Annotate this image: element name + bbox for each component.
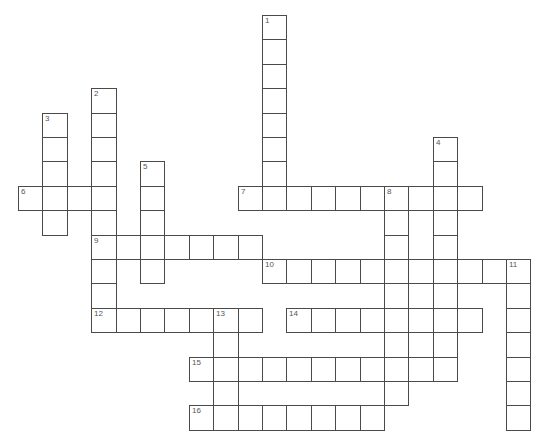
crossword-cell[interactable] — [164, 235, 190, 260]
crossword-cell[interactable] — [262, 88, 287, 114]
crossword-cell[interactable] — [67, 186, 92, 211]
crossword-cell[interactable] — [506, 381, 531, 406]
crossword-cell[interactable] — [311, 405, 336, 431]
crossword-cell[interactable] — [238, 308, 263, 333]
crossword-cell[interactable] — [384, 210, 409, 236]
crossword-cell[interactable]: 1 — [262, 15, 287, 40]
crossword-cell[interactable] — [286, 357, 312, 382]
crossword-cell[interactable]: 14 — [286, 308, 312, 333]
crossword-cell[interactable] — [506, 308, 531, 333]
crossword-cell[interactable] — [262, 137, 287, 162]
crossword-cell[interactable] — [384, 259, 409, 284]
crossword-cell[interactable] — [262, 39, 287, 65]
crossword-cell[interactable] — [433, 308, 458, 333]
crossword-cell[interactable]: 4 — [433, 137, 458, 162]
crossword-cell[interactable]: 12 — [91, 308, 117, 333]
crossword-cell[interactable] — [384, 235, 409, 260]
crossword-cell[interactable] — [140, 308, 165, 333]
crossword-cell[interactable] — [164, 308, 190, 333]
crossword-cell[interactable] — [408, 186, 434, 211]
crossword-cell[interactable] — [311, 357, 336, 382]
crossword-cell[interactable] — [408, 308, 434, 333]
crossword-cell[interactable] — [262, 357, 287, 382]
crossword-cell[interactable] — [360, 405, 385, 431]
crossword-cell[interactable] — [506, 332, 531, 358]
crossword-cell[interactable] — [384, 357, 409, 382]
crossword-cell[interactable]: 15 — [189, 357, 214, 382]
crossword-cell[interactable] — [262, 64, 287, 89]
crossword-cell[interactable] — [140, 259, 165, 284]
crossword-cell[interactable] — [140, 235, 165, 260]
crossword-cell[interactable] — [91, 161, 117, 187]
crossword-cell[interactable]: 13 — [213, 308, 239, 333]
crossword-cell[interactable] — [506, 405, 531, 431]
crossword-cell[interactable] — [91, 186, 117, 211]
crossword-cell[interactable] — [286, 259, 312, 284]
crossword-cell[interactable] — [408, 259, 434, 284]
crossword-cell[interactable] — [42, 161, 68, 187]
crossword-cell[interactable]: 11 — [506, 259, 531, 284]
crossword-cell[interactable] — [91, 113, 117, 138]
crossword-cell[interactable] — [91, 137, 117, 162]
crossword-cell[interactable] — [433, 210, 458, 236]
crossword-cell[interactable] — [213, 235, 239, 260]
crossword-cell[interactable] — [213, 381, 239, 406]
crossword-cell[interactable] — [457, 186, 483, 211]
crossword-cell[interactable] — [433, 357, 458, 382]
crossword-cell[interactable] — [91, 283, 117, 309]
crossword-cell[interactable] — [360, 308, 385, 333]
crossword-cell[interactable] — [433, 186, 458, 211]
crossword-cell[interactable] — [262, 405, 287, 431]
crossword-cell[interactable] — [140, 210, 165, 236]
crossword-cell[interactable] — [384, 308, 409, 333]
crossword-cell[interactable] — [91, 210, 117, 236]
crossword-cell[interactable] — [335, 186, 361, 211]
crossword-cell[interactable] — [384, 381, 409, 406]
crossword-cell[interactable]: 10 — [262, 259, 287, 284]
crossword-cell[interactable] — [360, 259, 385, 284]
crossword-cell[interactable] — [238, 235, 263, 260]
crossword-cell[interactable]: 16 — [189, 405, 214, 431]
crossword-cell[interactable] — [433, 283, 458, 309]
crossword-cell[interactable] — [311, 259, 336, 284]
crossword-cell[interactable] — [286, 405, 312, 431]
crossword-cell[interactable] — [335, 259, 361, 284]
crossword-cell[interactable]: 7 — [238, 186, 263, 211]
crossword-cell[interactable]: 3 — [42, 113, 68, 138]
crossword-cell[interactable] — [433, 161, 458, 187]
crossword-cell[interactable] — [433, 259, 458, 284]
crossword-cell[interactable] — [213, 332, 239, 358]
crossword-cell[interactable] — [262, 113, 287, 138]
crossword-cell[interactable] — [360, 357, 385, 382]
crossword-cell[interactable] — [286, 186, 312, 211]
crossword-cell[interactable] — [116, 235, 141, 260]
crossword-cell[interactable] — [116, 308, 141, 333]
crossword-cell[interactable] — [335, 405, 361, 431]
crossword-cell[interactable] — [433, 332, 458, 358]
crossword-cell[interactable] — [238, 405, 263, 431]
crossword-cell[interactable]: 5 — [140, 161, 165, 187]
crossword-cell[interactable] — [384, 283, 409, 309]
crossword-cell[interactable] — [91, 259, 117, 284]
crossword-cell[interactable] — [140, 186, 165, 211]
crossword-cell[interactable] — [457, 259, 483, 284]
crossword-cell[interactable] — [189, 235, 214, 260]
crossword-cell[interactable] — [189, 308, 214, 333]
crossword-cell[interactable]: 8 — [384, 186, 409, 211]
crossword-cell[interactable] — [213, 357, 239, 382]
crossword-cell[interactable] — [311, 308, 336, 333]
crossword-cell[interactable] — [506, 357, 531, 382]
crossword-cell[interactable] — [408, 357, 434, 382]
crossword-cell[interactable]: 6 — [18, 186, 43, 211]
crossword-cell[interactable] — [335, 308, 361, 333]
crossword-cell[interactable] — [384, 332, 409, 358]
crossword-cell[interactable] — [42, 210, 68, 236]
crossword-cell[interactable] — [506, 283, 531, 309]
crossword-cell[interactable] — [360, 186, 385, 211]
crossword-cell[interactable]: 9 — [91, 235, 117, 260]
crossword-cell[interactable] — [262, 186, 287, 211]
crossword-cell[interactable] — [433, 235, 458, 260]
crossword-cell[interactable] — [213, 405, 239, 431]
crossword-cell[interactable] — [335, 357, 361, 382]
crossword-cell[interactable] — [457, 308, 483, 333]
